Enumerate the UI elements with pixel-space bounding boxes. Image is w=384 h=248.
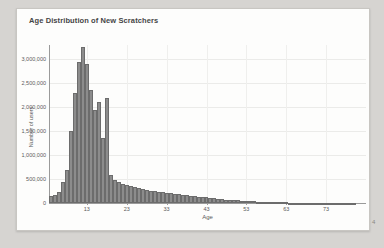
x-gridline xyxy=(326,45,327,203)
x-tick-label: 43 xyxy=(197,206,217,212)
page-marker: 4 xyxy=(372,219,375,225)
y-gridline xyxy=(49,83,366,84)
y-gridline xyxy=(49,59,366,60)
x-axis-label: Age xyxy=(202,214,213,220)
x-tick-label: 53 xyxy=(236,206,256,212)
y-axis-label: Number of users xyxy=(28,107,34,148)
x-gridline xyxy=(246,45,247,203)
x-gridline xyxy=(286,45,287,203)
x-tick-label: 23 xyxy=(117,206,137,212)
y-axis-line xyxy=(49,45,50,203)
y-tick-label: 2,500,000 xyxy=(16,80,46,86)
y-tick-label: 3,000,000 xyxy=(16,56,46,62)
x-gridline xyxy=(207,45,208,203)
x-tick-label: 13 xyxy=(77,206,97,212)
chart-card: Age Distribution of New Scratchers 0500,… xyxy=(16,8,370,231)
x-gridline xyxy=(167,45,168,203)
y-tick-label: 0 xyxy=(16,200,46,206)
x-tick-label: 63 xyxy=(276,206,296,212)
plot-area: 0500,0001,000,0001,500,0002,000,0002,500… xyxy=(17,9,371,232)
x-tick-label: 33 xyxy=(157,206,177,212)
y-tick-label: 1,000,000 xyxy=(16,152,46,158)
x-tick-label: 73 xyxy=(316,206,336,212)
y-tick-label: 500,000 xyxy=(16,176,46,182)
x-gridline xyxy=(127,45,128,203)
histogram-bar xyxy=(352,203,356,205)
